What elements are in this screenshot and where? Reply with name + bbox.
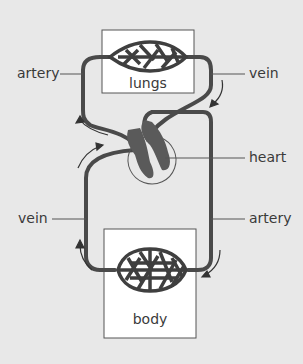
label-artery-top-left: artery: [17, 66, 59, 80]
arrow-icon: [213, 80, 223, 104]
label-vein-top-right: vein: [249, 66, 279, 80]
circulation-diagram: lungs body artery vein heart vein artery: [0, 0, 303, 364]
lungs-label: lungs: [102, 76, 194, 90]
diagram-graphic: [0, 0, 303, 364]
heart-chambers: [127, 120, 170, 178]
label-artery-bottom-right: artery: [249, 211, 291, 225]
label-heart: heart: [249, 150, 286, 164]
leader-lines: [52, 74, 245, 219]
body-label: body: [104, 312, 196, 326]
body-capillaries: [118, 249, 186, 291]
label-vein-bottom-left: vein: [18, 211, 48, 225]
